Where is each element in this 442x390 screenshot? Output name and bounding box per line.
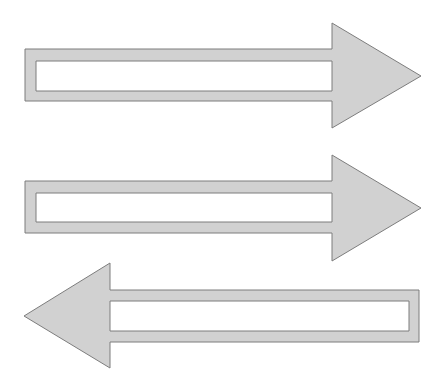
arrow-left-3 bbox=[24, 263, 419, 368]
arrow-shaft-hollow bbox=[36, 193, 332, 222]
arrow-diagram bbox=[0, 0, 442, 390]
arrow-shaft-hollow bbox=[110, 301, 409, 331]
arrow-right-1 bbox=[25, 23, 421, 128]
arrow-right-2 bbox=[25, 155, 421, 261]
arrow-shaft-hollow bbox=[36, 61, 332, 91]
